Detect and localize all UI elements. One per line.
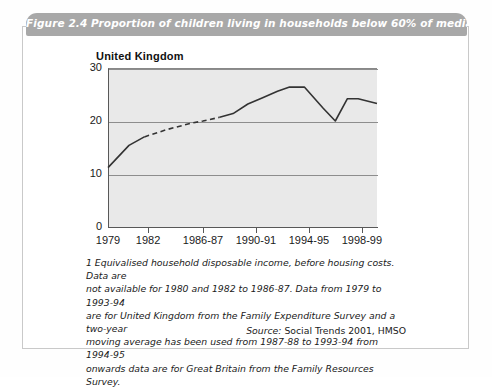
figure-footnote: 1 Equivalised household disposable incom… [86, 256, 406, 388]
x-tick-1982 [148, 228, 149, 233]
x-tick-label-1979: 1979 [96, 234, 120, 246]
x-tick-label-1994-95: 1994-95 [289, 234, 329, 246]
x-tick-1990-91 [256, 228, 257, 233]
x-tick-label-1998-99: 1998-99 [342, 234, 382, 246]
figure-source: Source: Social Trends 2001, HMSO [86, 325, 406, 336]
data-line-series [108, 68, 377, 227]
y-tick-label-10: 10 [72, 167, 102, 179]
x-tick-label-1990-91: 1990-91 [236, 234, 276, 246]
x-tick-label-1982: 1982 [136, 234, 160, 246]
x-tick-1994-95 [309, 228, 310, 233]
data-line-actual [108, 137, 144, 168]
data-line-estimated [144, 117, 219, 137]
source-text: Social Trends 2001, HMSO [281, 325, 406, 336]
chart-plot-area [108, 68, 377, 227]
footnote-line-1: 1 Equivalised household disposable incom… [86, 256, 406, 282]
x-tick-label-1986-87: 1986-87 [183, 234, 223, 246]
source-lead: Source: [246, 325, 281, 336]
footnote-line-5: onwards data are for Great Britain from … [86, 362, 406, 388]
y-tick-label-30: 30 [72, 61, 102, 73]
footnote-line-2: not available for 1980 and 1982 to 1986-… [86, 282, 406, 308]
footnote-line-4: moving average has been used from 1987-8… [86, 335, 406, 361]
chart-subtitle: United Kingdom [96, 50, 184, 62]
y-tick-label-0: 0 [72, 220, 102, 232]
data-line-actual [220, 87, 377, 121]
y-tick-label-20: 20 [72, 114, 102, 126]
x-tick-1998-99 [362, 228, 363, 233]
x-tick-1986-87 [203, 228, 204, 233]
